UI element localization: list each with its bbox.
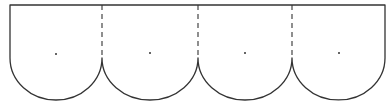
center-dot-4 [338,52,340,54]
scalloped-strip-diagram [0,0,389,107]
center-dot-2 [149,52,151,54]
center-dot-1 [55,53,57,55]
fold-lines [102,5,292,56]
center-dot-3 [244,52,246,54]
